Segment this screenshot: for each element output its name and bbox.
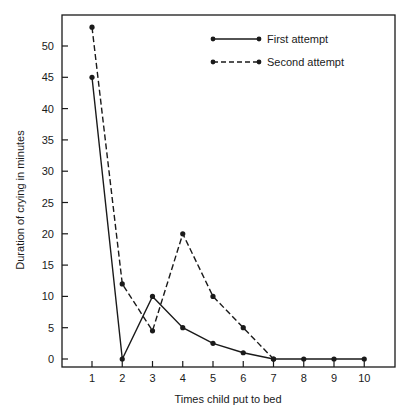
- y-tick-label: 5: [48, 322, 54, 334]
- y-tick-label: 25: [42, 197, 54, 209]
- x-tick-label: 1: [89, 372, 95, 384]
- y-tick-label: 20: [42, 228, 54, 240]
- data-point: [89, 75, 94, 80]
- legend-second-label: Second attempt: [267, 56, 344, 68]
- x-axis-title: Times child put to bed: [174, 393, 281, 405]
- x-tick-label: 2: [119, 372, 125, 384]
- x-tick-label: 5: [210, 372, 216, 384]
- y-tick-label: 40: [42, 103, 54, 115]
- series-line-first-attempt: [92, 77, 364, 359]
- data-point: [241, 325, 246, 330]
- data-point: [210, 341, 215, 346]
- data-point: [271, 356, 276, 361]
- series-line-second-attempt: [92, 27, 274, 359]
- y-tick-label: 15: [42, 259, 54, 271]
- data-point: [241, 350, 246, 355]
- y-tick-label: 10: [42, 290, 54, 302]
- data-point: [180, 325, 185, 330]
- x-tick-label: 7: [270, 372, 276, 384]
- data-point: [120, 356, 125, 361]
- x-tick-label: 10: [358, 372, 370, 384]
- line-chart: 05101520253035404550 12345678910 First a…: [0, 0, 411, 416]
- y-axis-title: Duration of crying in minutes: [14, 130, 26, 270]
- y-tick-label: 35: [42, 134, 54, 146]
- x-tick-label: 3: [149, 372, 155, 384]
- data-point: [89, 25, 94, 30]
- legend: First attempt Second attempt: [211, 33, 344, 68]
- series-layer: [89, 25, 366, 362]
- legend-first-label: First attempt: [267, 33, 328, 45]
- data-point: [331, 356, 336, 361]
- y-tick-label: 45: [42, 71, 54, 83]
- x-tick-label: 8: [301, 372, 307, 384]
- y-tick-label: 0: [48, 353, 54, 365]
- data-point: [150, 328, 155, 333]
- data-point: [120, 281, 125, 286]
- y-axis-ticks: 05101520253035404550: [42, 40, 68, 365]
- data-point: [180, 231, 185, 236]
- data-point: [210, 294, 215, 299]
- x-axis-ticks: 12345678910: [89, 361, 370, 384]
- x-tick-label: 6: [240, 372, 246, 384]
- legend-second-marker-left: [211, 60, 216, 65]
- legend-second-marker-right: [257, 60, 262, 65]
- x-tick-label: 4: [180, 372, 186, 384]
- y-tick-label: 30: [42, 165, 54, 177]
- x-tick-label: 9: [331, 372, 337, 384]
- legend-first-marker-right: [257, 37, 262, 42]
- data-point: [301, 356, 306, 361]
- y-tick-label: 50: [42, 40, 54, 52]
- legend-first-marker-left: [211, 37, 216, 42]
- data-point: [150, 294, 155, 299]
- data-point: [362, 356, 367, 361]
